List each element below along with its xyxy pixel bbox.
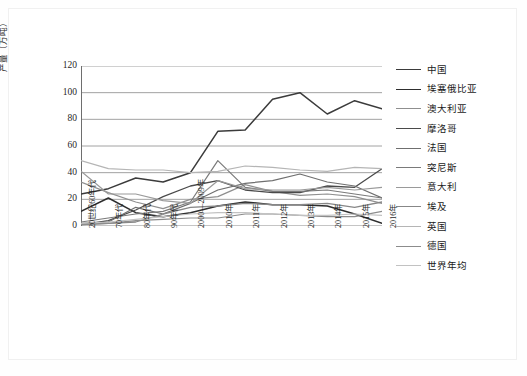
- series-line-8: [81, 161, 382, 173]
- series-line-0: [81, 93, 382, 194]
- legend-swatch-line-icon: [396, 148, 421, 149]
- y-tick-label: 0: [47, 221, 77, 230]
- legend-swatch-line-icon: [396, 128, 421, 129]
- y-axis-title: 产量（万吨）: [0, 0, 8, 105]
- legend-label: 突尼斯: [427, 163, 457, 173]
- legend-label: 法国: [427, 143, 447, 153]
- legend-label: 德国: [427, 241, 447, 251]
- legend-item-0[interactable]: 中国: [396, 60, 516, 80]
- y-tick-label: 120: [47, 61, 77, 70]
- chart-figure: 产量（万吨） 020406080100120 20世纪60年代70年代80年代9…: [0, 0, 527, 376]
- x-axis-ticks: 20世纪60年代70年代80年代90年代2000—2009年2010年2011年…: [81, 228, 382, 333]
- legend-item-4[interactable]: 法国: [396, 138, 516, 158]
- legend-item-10[interactable]: 世界年均: [396, 256, 516, 276]
- legend-label: 埃及: [427, 202, 447, 212]
- y-tick-label: 40: [47, 168, 77, 177]
- chart-legend: 中国埃塞俄比亚澳大利亚摩洛哥法国突尼斯意大利埃及英国德国世界年均: [396, 60, 516, 276]
- legend-swatch-line-icon: [396, 265, 421, 266]
- legend-item-8[interactable]: 英国: [396, 217, 516, 237]
- legend-item-9[interactable]: 德国: [396, 236, 516, 256]
- legend-label: 世界年均: [427, 261, 467, 271]
- y-axis-ticks: 020406080100120: [45, 66, 77, 226]
- legend-item-2[interactable]: 澳大利亚: [396, 99, 516, 119]
- legend-swatch-line-icon: [396, 69, 421, 70]
- legend-label: 摩洛哥: [427, 124, 457, 134]
- legend-item-7[interactable]: 埃及: [396, 197, 516, 217]
- y-tick-label: 80: [47, 114, 77, 123]
- legend-swatch-line-icon: [396, 108, 421, 109]
- plot-area: [81, 66, 382, 226]
- legend-swatch-line-icon: [396, 206, 421, 207]
- legend-swatch-line-icon: [396, 226, 421, 227]
- plot-svg: [81, 66, 382, 226]
- y-tick-label: 100: [47, 88, 77, 97]
- legend-label: 澳大利亚: [427, 104, 467, 114]
- legend-swatch-line-icon: [396, 187, 421, 188]
- legend-item-3[interactable]: 摩洛哥: [396, 119, 516, 139]
- legend-swatch-line-icon: [396, 167, 421, 168]
- legend-item-6[interactable]: 意大利: [396, 178, 516, 198]
- legend-label: 埃塞俄比亚: [427, 84, 477, 94]
- y-tick-label: 60: [47, 141, 77, 150]
- legend-swatch-line-icon: [396, 89, 421, 90]
- legend-label: 意大利: [427, 182, 457, 192]
- legend-swatch-line-icon: [396, 246, 421, 247]
- legend-label: 英国: [427, 222, 447, 232]
- y-tick-label: 20: [47, 194, 77, 203]
- legend-label: 中国: [427, 65, 447, 75]
- legend-item-1[interactable]: 埃塞俄比亚: [396, 80, 516, 100]
- screenshot-page: 产量（万吨） 020406080100120 20世纪60年代70年代80年代9…: [0, 0, 527, 376]
- legend-item-5[interactable]: 突尼斯: [396, 158, 516, 178]
